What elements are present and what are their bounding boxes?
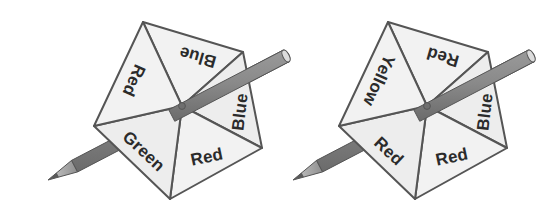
spinner-hub — [424, 103, 431, 110]
spinner-figure: BlueBlueRedGreenRed RedBlueRedRedYellow — [0, 0, 556, 221]
spinners-canvas: BlueBlueRedGreenRed RedBlueRedRedYellow — [0, 0, 556, 221]
right-spinner[interactable]: RedBlueRedRedYellow — [293, 22, 537, 199]
spinner-hub — [179, 103, 186, 110]
left-spinner[interactable]: BlueBlueRedGreenRed — [48, 22, 292, 199]
